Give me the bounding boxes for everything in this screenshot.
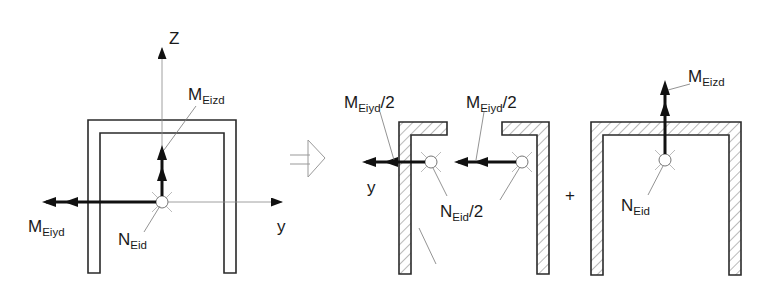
half-y-axis-label: y — [367, 178, 376, 197]
half-axial-leader-right — [500, 167, 520, 200]
moment-z-label: MEizd — [188, 85, 225, 106]
y-axis-label: y — [277, 217, 286, 236]
axial-label: NEid — [118, 230, 147, 251]
moment-z-label-right: MEizd — [688, 67, 725, 88]
moment-z-arrow-right — [660, 80, 670, 154]
half-moment-y-label-right: MEiyd/2 — [466, 93, 517, 114]
half-axial-label: NEid/2 — [440, 202, 483, 223]
channel-section-decomposition-diagram: Z y MEiyd MEizd — [0, 0, 771, 292]
right-section: MEizd NEid — [591, 67, 741, 275]
z-axis-label: Z — [169, 29, 179, 48]
moment-z-leader-right — [668, 84, 690, 90]
middle-right-half-section: MEiyd/2 NEid/2 — [433, 93, 549, 274]
half-channel-left-outline — [399, 122, 447, 274]
half-moment-leader-right — [476, 112, 484, 160]
half-moment-leader-left — [380, 112, 394, 160]
stray-leader — [419, 228, 436, 264]
half-moment-y-arrow-right — [454, 157, 516, 167]
half-axial-leader-left — [433, 168, 447, 196]
axial-leader-right — [648, 166, 663, 195]
moment-z-arrow — [157, 145, 167, 196]
middle-left-half-section: y MEiyd/2 — [344, 93, 447, 274]
axial-label-right: NEid — [621, 196, 650, 217]
half-moment-y-label-left: MEiyd/2 — [344, 93, 395, 114]
axial-leader — [144, 206, 160, 232]
plus-sign: + — [565, 186, 575, 205]
moment-y-label: MEiyd — [28, 217, 65, 238]
half-channel-right-outline — [502, 122, 549, 274]
implies-arrow-icon — [290, 140, 325, 177]
left-section: Z y MEiyd MEizd — [28, 29, 286, 273]
